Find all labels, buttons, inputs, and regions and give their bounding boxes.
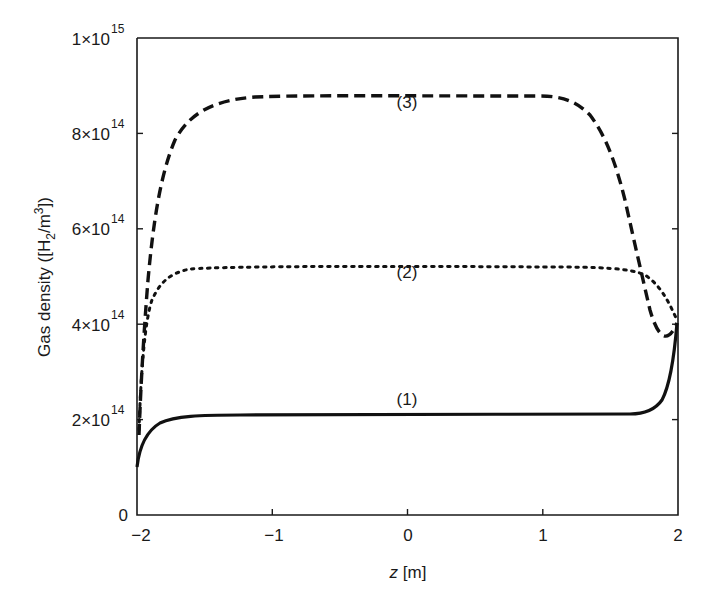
y-axis-tick-labels: 0 2×10 14 4×10 14 6×10 14 8×10 14 1×10 1… [72,22,128,525]
y-tick-1e15: 1×10 [72,30,110,49]
x-tick-2: 2 [673,526,682,545]
y-tick-2e14-exp: 14 [111,403,125,417]
y-tick-8e14-exp: 14 [111,117,125,131]
y-tick-6e14-exp: 14 [111,212,125,226]
curve-label-1: (1) [397,390,418,409]
y-tick-8e14: 8×10 [72,125,110,144]
y-tick-2e14: 2×10 [72,411,110,430]
y-tick-4e14: 4×10 [72,316,110,335]
y-tick-6e14: 6×10 [72,220,110,239]
x-tick-neg2: −2 [131,526,150,545]
x-axis-tick-labels: −2 −1 0 1 2 [131,526,682,545]
y-tick-0: 0 [119,506,128,525]
curve-label-3: (3) [397,93,418,112]
gas-density-chart: 0 2×10 14 4×10 14 6×10 14 8×10 14 1×10 1… [0,0,704,602]
curve-label-2: (2) [397,263,418,282]
y-tick-4e14-exp: 14 [111,308,125,322]
x-axis-title: z [m] [389,563,427,582]
y-tick-1e15-exp: 15 [111,22,125,36]
x-tick-neg1: −1 [264,526,283,545]
y-axis-title: Gas density ([H2/m3]) [32,197,58,357]
x-tick-0: 0 [403,526,412,545]
x-axis-ticks [272,509,543,515]
x-tick-1: 1 [538,526,547,545]
